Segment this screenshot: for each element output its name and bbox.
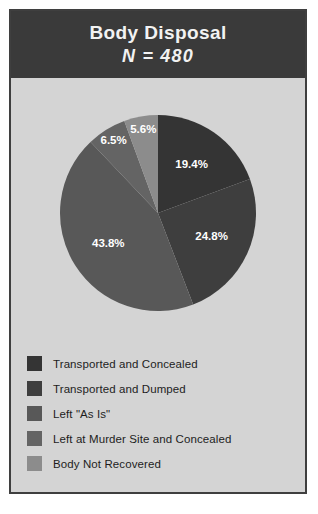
chart-legend: Transported and Concealed Transported an… bbox=[11, 351, 305, 476]
legend-item-label: Transported and Dumped bbox=[53, 383, 186, 395]
legend-swatch-icon bbox=[27, 356, 42, 371]
pie-data-label: 6.5% bbox=[100, 134, 126, 146]
legend-swatch-icon bbox=[27, 456, 42, 471]
pie-chart: 19.4%24.8%43.8%6.5%5.6% bbox=[58, 113, 258, 313]
chart-subtitle-sample-size: N = 480 bbox=[122, 46, 194, 67]
legend-item: Left at Murder Site and Concealed bbox=[27, 426, 305, 451]
legend-swatch-icon bbox=[27, 406, 42, 421]
legend-swatch-icon bbox=[27, 381, 42, 396]
chart-header: Body Disposal N = 480 bbox=[11, 11, 305, 78]
pie-data-label: 24.8% bbox=[195, 230, 228, 242]
pie-data-label: 43.8% bbox=[92, 237, 125, 249]
legend-item-label: Left at Murder Site and Concealed bbox=[53, 433, 231, 445]
pie-data-label: 5.6% bbox=[130, 123, 156, 135]
legend-item-label: Transported and Concealed bbox=[53, 358, 198, 370]
pie-data-label: 19.4% bbox=[175, 158, 208, 170]
legend-item: Transported and Concealed bbox=[27, 351, 305, 376]
legend-item: Transported and Dumped bbox=[27, 376, 305, 401]
chart-title: Body Disposal bbox=[89, 23, 226, 43]
legend-swatch-icon bbox=[27, 431, 42, 446]
legend-item: Body Not Recovered bbox=[27, 451, 305, 476]
chart-figure: Body Disposal N = 480 19.4%24.8%43.8%6.5… bbox=[9, 9, 307, 494]
legend-item-label: Left "As Is" bbox=[53, 408, 110, 420]
legend-item-label: Body Not Recovered bbox=[53, 458, 161, 470]
pie-plot-area: 19.4%24.8%43.8%6.5%5.6% bbox=[11, 78, 305, 348]
legend-item: Left "As Is" bbox=[27, 401, 305, 426]
pie-slice-group bbox=[60, 115, 256, 311]
